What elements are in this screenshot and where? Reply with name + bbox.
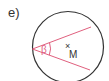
angle-beta-label: β bbox=[41, 44, 47, 55]
center-point-label: M bbox=[69, 49, 77, 60]
angle-arc bbox=[49, 43, 50, 56]
geometry-diagram: β × M bbox=[0, 0, 109, 81]
